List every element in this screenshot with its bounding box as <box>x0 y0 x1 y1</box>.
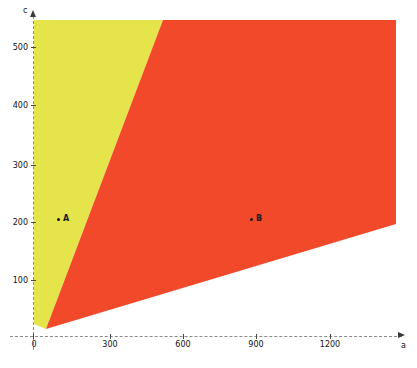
y-tick-label-500: 500 <box>2 43 28 52</box>
x-tick-label-900: 900 <box>236 340 276 349</box>
y-tick-label-300: 300 <box>2 161 28 170</box>
x-tick-label-300: 300 <box>90 340 130 349</box>
x-tick-label-0: 0 <box>14 340 54 349</box>
point-marker-icon <box>250 218 253 221</box>
y-tick-label-200: 200 <box>2 218 28 227</box>
data-point-a-label: A <box>63 214 69 223</box>
y-tick-100 <box>31 280 36 281</box>
x-tick-900 <box>256 334 257 339</box>
region-layer <box>0 0 417 368</box>
chart-canvas: c a 0 300 600 900 1200 100 200 300 400 5… <box>0 0 417 368</box>
x-axis-label: a <box>401 341 406 350</box>
x-axis-arrow-icon <box>398 332 405 338</box>
y-axis-line <box>33 16 34 350</box>
x-tick-label-600: 600 <box>163 340 203 349</box>
x-tick-1200 <box>330 334 331 339</box>
y-axis-arrow-icon <box>30 10 36 17</box>
y-tick-200 <box>31 222 36 223</box>
data-point-b-label: B <box>256 214 262 223</box>
x-tick-600 <box>183 334 184 339</box>
y-axis-label: c <box>23 6 27 15</box>
x-tick-0 <box>33 334 34 339</box>
y-tick-400 <box>31 105 36 106</box>
x-tick-300 <box>110 334 111 339</box>
y-tick-300 <box>31 165 36 166</box>
x-tick-label-1200: 1200 <box>310 340 350 349</box>
point-marker-icon <box>57 218 60 221</box>
y-tick-label-100: 100 <box>2 276 28 285</box>
x-axis-line <box>10 336 402 337</box>
y-tick-500 <box>31 47 36 48</box>
y-tick-label-400: 400 <box>2 101 28 110</box>
